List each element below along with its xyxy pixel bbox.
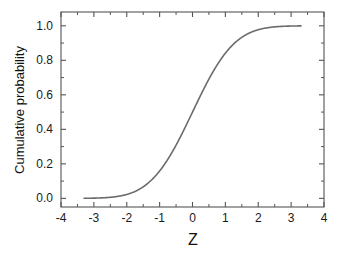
x-tick-label: 2 (255, 211, 262, 225)
x-tick-label: 0 (189, 211, 196, 225)
x-tick-label: -1 (154, 211, 165, 225)
x-axis-title: Z (188, 231, 198, 248)
cumulative-probability-plot: -4-3-2-101234 0.00.20.40.60.81.0 Z Cumul… (0, 0, 341, 258)
y-tick-label: 0.4 (36, 122, 53, 136)
y-tick-label: 0.2 (36, 157, 53, 171)
x-tick-label: -3 (89, 211, 100, 225)
y-axis-title: Cumulative probability (12, 46, 27, 174)
x-tick-label: -2 (121, 211, 132, 225)
x-tick-label: 4 (321, 211, 328, 225)
x-tick-label: -4 (56, 211, 67, 225)
x-tick-label: 3 (288, 211, 295, 225)
y-tick-label: 0.0 (36, 191, 53, 205)
x-axis-tick-labels: -4-3-2-101234 (56, 211, 328, 225)
y-tick-label: 0.6 (36, 88, 53, 102)
chart-figure: -4-3-2-101234 0.00.20.40.60.81.0 Z Cumul… (0, 0, 341, 258)
x-tick-label: 1 (222, 211, 229, 225)
y-tick-label: 1.0 (36, 19, 53, 33)
y-tick-label: 0.8 (36, 53, 53, 67)
